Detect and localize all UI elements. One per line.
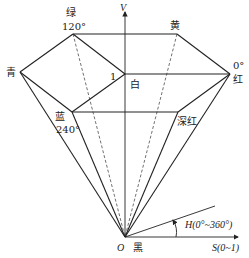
v-axis-label: V <box>120 2 128 13</box>
yellow-label: 黄 <box>170 19 180 31</box>
blue-label: 蓝 <box>55 111 65 122</box>
hidden-edge-yellow-black <box>125 34 177 237</box>
s-axis-label: S(0~1) <box>212 242 240 254</box>
edge-magenta-black <box>125 112 178 237</box>
black-label: 黑 <box>133 242 143 253</box>
edge-cyan-black <box>20 72 125 237</box>
edge-cyan-blue <box>20 72 72 112</box>
origin-label: O <box>117 242 124 253</box>
white-value-label: 1 <box>110 71 116 82</box>
white-label: 白 <box>130 78 140 90</box>
edge-magenta-red <box>178 74 230 112</box>
deep-red-label: 深红 <box>177 115 197 127</box>
edge-yellow-red <box>177 34 230 74</box>
edge-red-black <box>125 74 230 237</box>
edge-green-cyan <box>20 34 73 72</box>
blue-angle-label: 240° <box>56 124 80 135</box>
edge-green-white <box>73 34 125 74</box>
h-angle-arc <box>173 220 177 237</box>
red-angle-label: 0° <box>233 60 244 71</box>
hidden-edge-green-black <box>73 34 125 237</box>
green-label: 绿 <box>66 6 76 18</box>
edge-white-blue <box>72 74 125 112</box>
green-angle-label: 120° <box>62 21 86 32</box>
hsv-hexcone-diagram: V 绿 120° 黄 青 0° 红 1 白 蓝 240° 深红 O 黑 H(0°… <box>0 0 249 258</box>
cyan-label: 青 <box>6 66 16 78</box>
h-axis-label: H(0°~360°) <box>184 219 233 231</box>
red-label: 红 <box>233 73 243 85</box>
